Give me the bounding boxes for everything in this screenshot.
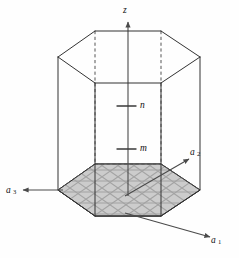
marker-m-label: m [140, 143, 147, 153]
a3-axis-label-subscript: 3 [13, 188, 17, 195]
top-edge-1 [58, 31, 95, 57]
marker-n-label: n [140, 100, 145, 110]
a1-axis-line [125, 213, 210, 237]
plane-markers [117, 106, 136, 149]
hexagonal-prism-figure: z n m a 1 a 2 a 3 [0, 0, 239, 258]
a3-axis-label: a [6, 185, 11, 195]
a1-axis-label: a [211, 235, 216, 245]
a1-axis-label-subscript: 1 [218, 238, 221, 245]
top-edge-3 [161, 31, 200, 57]
a2-axis-label-subscript: 2 [197, 150, 200, 157]
hexagonal-prism-diagram: z n m a 1 a 2 a 3 [0, 0, 239, 258]
top-edge-4 [161, 57, 200, 83]
basal-plane [20, 158, 238, 220]
basal-plane-outline [58, 164, 200, 216]
top-edge-6 [58, 57, 95, 83]
z-axis-label: z [122, 5, 127, 15]
a2-axis-label: a [190, 147, 195, 157]
